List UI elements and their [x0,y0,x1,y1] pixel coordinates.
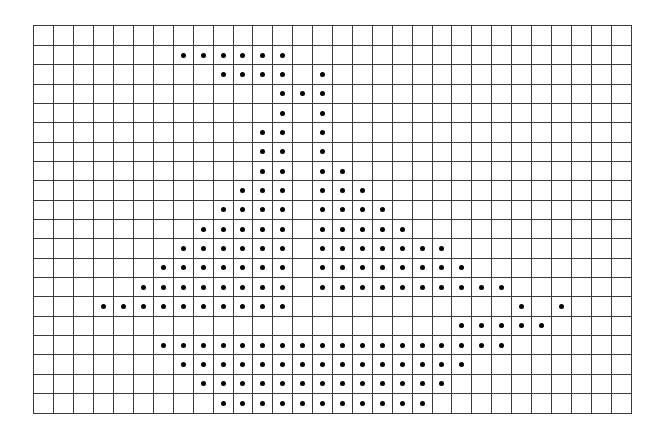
grid-dot [280,343,285,348]
grid-dot [340,169,345,174]
grid-dot [240,343,245,348]
grid-dot [479,343,484,348]
grid-dot [201,227,206,232]
grid-dot [420,285,425,290]
grid-dot [240,53,245,58]
grid-dot [260,72,265,77]
grid-dot [240,362,245,367]
grid-dot [141,285,146,290]
grid-dot [380,265,385,270]
grid-dot [201,246,206,251]
grid-dot [260,169,265,174]
grid-dot [439,362,444,367]
grid-dot [539,323,544,328]
grid-dot [519,304,524,309]
grid-dot [240,207,245,212]
grid-dot [181,304,186,309]
grid-dot [161,343,166,348]
grid-dot [221,207,226,212]
grid-dot [260,188,265,193]
grid-dot [320,362,325,367]
grid-dot [459,343,464,348]
grid-dot [201,265,206,270]
grid-dot [280,207,285,212]
grid-line-horizontal [34,393,631,394]
grid-dot [320,227,325,232]
grid-dot [420,246,425,251]
grid-dot [300,381,305,386]
grid-dot [260,265,265,270]
grid-dot [260,53,265,58]
grid-dot [221,265,226,270]
grid-dot [240,381,245,386]
grid-dot [360,246,365,251]
grid-dot [380,227,385,232]
grid-dot [320,285,325,290]
grid-dot [320,111,325,116]
grid-dot [280,111,285,116]
grid-line-horizontal [34,277,631,278]
grid-dot [340,207,345,212]
grid-dot [201,362,206,367]
grid-dot [400,227,405,232]
grid-dot [320,91,325,96]
grid-dot [320,130,325,135]
grid-dot [181,53,186,58]
grid-dot [320,381,325,386]
grid-dot [260,304,265,309]
grid-dot [400,246,405,251]
grid-dot [300,401,305,406]
grid-dot [221,401,226,406]
grid-line-horizontal [34,335,631,336]
grid-dot [320,246,325,251]
grid-dot [439,343,444,348]
grid-line-horizontal [34,84,631,85]
grid-dot [280,304,285,309]
grid-dot [221,246,226,251]
grid-dot [360,265,365,270]
grid-line-horizontal [34,142,631,143]
grid-dot [240,401,245,406]
grid-dot [400,265,405,270]
grid-dot [101,304,106,309]
grid-dot [280,285,285,290]
grid-dot [280,227,285,232]
grid-dot [221,381,226,386]
grid-dot [360,227,365,232]
grid-line-horizontal [34,122,631,123]
grid-dot [360,285,365,290]
grid-dot [320,149,325,154]
grid-dot [260,207,265,212]
grid-dot [201,285,206,290]
grid-dot [280,149,285,154]
grid-dot [260,130,265,135]
grid-line-horizontal [34,161,631,162]
grid-dot [201,53,206,58]
grid-line-horizontal [34,354,631,355]
grid-dot [320,207,325,212]
grid-dot [340,227,345,232]
grid-dot [280,381,285,386]
grid-line-horizontal [34,45,631,46]
grid-dot [340,401,345,406]
grid-line-horizontal [34,219,631,220]
grid-line-horizontal [34,238,631,239]
grid-dot [380,381,385,386]
grid-dot [420,343,425,348]
grid-dot [201,381,206,386]
grid-dot [499,285,504,290]
grid-dot [439,381,444,386]
grid-line-horizontal [34,374,631,375]
grid-dot [320,265,325,270]
grid-dot [559,304,564,309]
grid-dot [260,381,265,386]
grid-dot [320,72,325,77]
grid-dot [280,188,285,193]
grid-dot [280,130,285,135]
grid-dot [280,169,285,174]
grid-dot [260,285,265,290]
grid-line-horizontal [34,296,631,297]
grid-dot [479,323,484,328]
grid-dot [459,265,464,270]
grid-dot [519,323,524,328]
